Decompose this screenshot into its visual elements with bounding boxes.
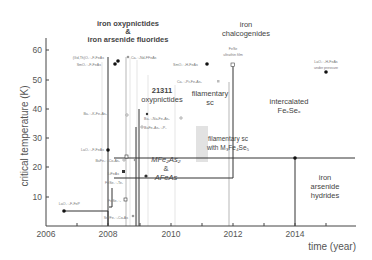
- point-lifeas: [122, 170, 125, 173]
- xtick-2010: 2010: [162, 229, 181, 239]
- ytick-30: 30: [33, 133, 43, 143]
- svg-text:SmO₁₋ₓHₓFeAs: SmO₁₋ₓHₓFeAs: [173, 63, 198, 67]
- point-cand: [127, 56, 130, 59]
- point-smf: [113, 62, 117, 66]
- svg-text:LaO₁₋ₓHₓFeAs: LaO₁₋ₓHₓFeAs: [314, 60, 338, 64]
- point-smh: [205, 62, 209, 66]
- xtick-2008: 2008: [99, 229, 118, 239]
- point-bap: [141, 126, 143, 128]
- svg-text:LiFeAs: LiFeAs: [108, 172, 119, 176]
- svg-text:chalcogenides: chalcogenides: [222, 29, 270, 38]
- svg-text:LaO₁₋ₓFₓFeAs: LaO₁₋ₓFₓFeAs: [81, 148, 104, 152]
- point-baco2: [134, 159, 137, 162]
- point-lah: [324, 70, 328, 74]
- svg-text:FeSe₁₋ₓ: FeSe₁₋ₓ: [108, 199, 122, 203]
- svg-text:LaO₁₋ₓFₓFeP: LaO₁₋ₓFₓFeP: [59, 202, 81, 206]
- svg-text:BaFe₂₋ₓCoₓAs₂: BaFe₂₋ₓCoₓAs₂: [95, 159, 120, 163]
- svg-text:with M₃Fe₄Se₅: with M₃Fe₄Se₅: [206, 144, 250, 151]
- svg-text:iron arsenide fluorides: iron arsenide fluorides: [88, 35, 169, 44]
- tc-timeline-chart: 60 50 40 30 20 10 2006 2008 2010 2012 20…: [0, 0, 372, 260]
- point-hydride: [293, 156, 297, 160]
- svg-text:oxypnictides: oxypnictides: [141, 95, 183, 104]
- svg-text:Ba₁₋ₓKₓFe₂As₂: Ba₁₋ₓKₓFe₂As₂: [83, 112, 107, 116]
- svg-text:filamentary: filamentary: [192, 89, 229, 98]
- y-axis-title: critical temperature (K): [19, 85, 30, 186]
- svg-text:BaFe₂As₂₋ₓPₓ: BaFe₂As₂₋ₓPₓ: [144, 126, 167, 130]
- svg-text:iron: iron: [240, 20, 253, 29]
- svg-text:(Gd,Th)O₁₋ₓFₓFeAs: (Gd,Th)O₁₋ₓFₓFeAs: [73, 56, 105, 60]
- svg-text:&: &: [163, 164, 168, 173]
- svg-text:21311: 21311: [152, 86, 172, 95]
- svg-text:FeSe: FeSe: [229, 47, 238, 51]
- xtick-2006: 2006: [37, 229, 56, 239]
- svg-text:Ba₁₋ₓNaₓFe₂As₂: Ba₁₋ₓNaₓFe₂As₂: [144, 117, 170, 121]
- point-lap: [62, 209, 66, 213]
- svg-text:sc: sc: [206, 98, 214, 107]
- point-baco: [123, 159, 125, 161]
- point-bana: [146, 113, 148, 115]
- svg-text:filamentary sc: filamentary sc: [208, 135, 249, 143]
- svg-text:FeₓSeₓ: FeₓSeₓ: [278, 106, 301, 115]
- svg-text:SrFFe₁₋ₓCoₓAs: SrFFe₁₋ₓCoₓAs: [104, 216, 129, 220]
- point-bana-open: [180, 117, 182, 119]
- point-sr: [132, 215, 135, 218]
- svg-text:iron: iron: [319, 173, 332, 182]
- svg-text:FeSe₁₋ₓTeₓ: FeSe₁₋ₓTeₓ: [105, 181, 124, 185]
- svg-text:hydrides: hydrides: [311, 191, 340, 200]
- ytick-10: 10: [33, 192, 43, 202]
- ytick-50: 50: [33, 75, 43, 85]
- point-laf: [106, 148, 110, 152]
- ytick-60: 60: [33, 45, 43, 55]
- svg-text:SmO₁₋ₓFₓFeAs: SmO₁₋ₓFₓFeAs: [77, 63, 102, 67]
- svg-text:arsenide: arsenide: [311, 182, 340, 191]
- svg-text:Ca₁₋ₓNdₓFFeAs: Ca₁₋ₓNdₓFFeAs: [131, 56, 157, 60]
- point-bak: [126, 114, 128, 116]
- group-labels: iron oxypnictides & iron arsenide fluori…: [88, 19, 340, 200]
- point-fesete: [125, 155, 128, 158]
- x-axis-title: time (year): [308, 241, 356, 252]
- ytick-20: 20: [33, 162, 43, 172]
- svg-text:intercalated: intercalated: [270, 97, 309, 106]
- svg-text:under pressure: under pressure: [314, 66, 338, 70]
- svg-text:AFeAs: AFeAs: [154, 173, 178, 182]
- xtick-2012: 2012: [224, 229, 243, 239]
- point-fese-film: [231, 63, 235, 67]
- xtick-2014: 2014: [286, 229, 305, 239]
- point-gdth: [116, 59, 120, 63]
- ytick-40: 40: [33, 104, 43, 114]
- point-fese: [124, 198, 127, 201]
- svg-text:Ca₁₋ₓPrₓFe₂As₂: Ca₁₋ₓPrₓFe₂As₂: [177, 80, 203, 84]
- svg-text:ultrathin film: ultrathin film: [223, 53, 242, 57]
- point-capr: [217, 80, 220, 83]
- svg-text:MFe₂As₂: MFe₂As₂: [151, 155, 181, 164]
- point-mfe: [144, 174, 147, 177]
